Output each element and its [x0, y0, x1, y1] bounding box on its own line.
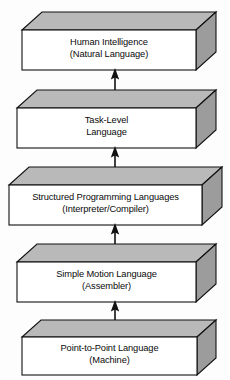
block-front-face	[9, 185, 202, 225]
block-top-face	[22, 320, 216, 337]
block-task-level[interactable]: Task-Level Language	[17, 90, 216, 148]
block-top-face	[9, 167, 222, 185]
block-front-face	[17, 262, 196, 302]
block-front-face	[22, 30, 196, 70]
block-top-face	[22, 12, 216, 30]
block-top-face	[17, 244, 216, 262]
block-structured-programming[interactable]: Structured Programming Languages (Interp…	[9, 167, 222, 225]
block-top-face	[17, 90, 216, 108]
block-front-face	[17, 108, 196, 148]
language-hierarchy-diagram: Human Intelligence (Natural Language) Ta…	[0, 0, 230, 380]
block-front-face	[22, 337, 197, 375]
block-human-intelligence[interactable]: Human Intelligence (Natural Language)	[22, 12, 216, 70]
block-simple-motion[interactable]: Simple Motion Language (Assembler)	[17, 244, 216, 302]
block-point-to-point[interactable]: Point-to-Point Language (Machine)	[22, 320, 216, 375]
